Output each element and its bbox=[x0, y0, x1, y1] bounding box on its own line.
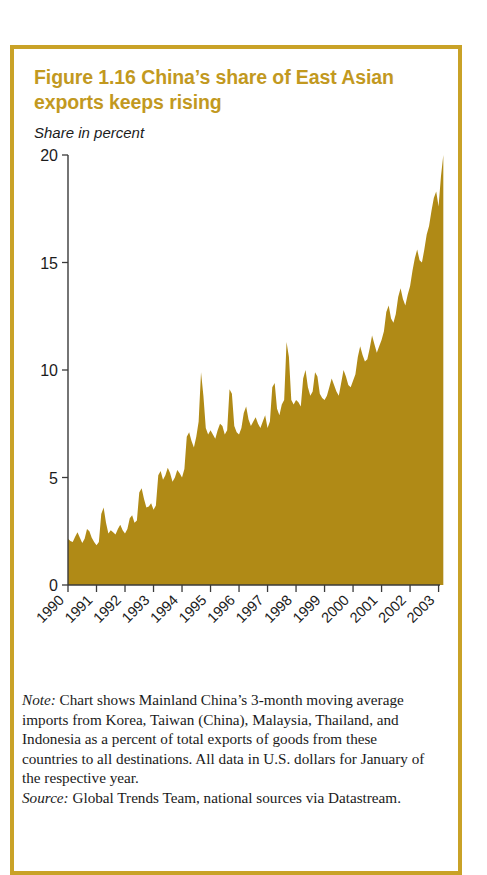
x-tick-label: 1998 bbox=[261, 592, 295, 626]
source-body: Global Trends Team, national sources via… bbox=[69, 789, 401, 806]
chart-units-label: Share in percent bbox=[34, 124, 438, 141]
figure-title: Figure 1.16 China’s share of East Asian … bbox=[34, 65, 434, 115]
x-tick-label: 1996 bbox=[204, 592, 238, 626]
source-label: Source: bbox=[22, 789, 69, 806]
y-tick-label: 20 bbox=[40, 147, 58, 164]
series-area bbox=[68, 155, 443, 585]
x-tick-label: 1999 bbox=[290, 592, 324, 626]
x-tick-label: 1991 bbox=[61, 592, 95, 626]
x-tick-label: 1992 bbox=[90, 592, 124, 626]
x-tick-label: 2000 bbox=[318, 592, 352, 626]
x-tick-label: 2003 bbox=[404, 592, 438, 626]
y-tick-label: 15 bbox=[40, 255, 58, 272]
x-tick-label: 1990 bbox=[34, 592, 67, 626]
note-paragraph: Note: Chart shows Mainland China’s 3-mon… bbox=[22, 690, 426, 788]
x-axis-tick-labels: 1990199119921993199419951996199719981999… bbox=[34, 592, 438, 626]
note-body: Chart shows Mainland China’s 3-month mov… bbox=[22, 691, 424, 786]
y-axis-tick-labels: 05101520 bbox=[40, 147, 58, 594]
x-tick-label: 2002 bbox=[375, 592, 409, 626]
x-tick-label: 1994 bbox=[147, 592, 181, 626]
y-tick-label: 0 bbox=[49, 577, 58, 594]
x-tick-label: 1995 bbox=[176, 592, 210, 626]
y-tick-label: 5 bbox=[49, 470, 58, 487]
x-tick-label: 1997 bbox=[233, 592, 267, 626]
note-label: Note: bbox=[22, 691, 56, 708]
source-paragraph: Source: Global Trends Team, national sou… bbox=[22, 788, 426, 808]
chart-series-fill bbox=[68, 155, 443, 585]
x-tick-label: 2001 bbox=[347, 592, 381, 626]
y-tick-label: 10 bbox=[40, 362, 58, 379]
chart-area: 05101520 1990199119921993199419951996199… bbox=[34, 143, 446, 663]
area-chart: 05101520 1990199119921993199419951996199… bbox=[34, 143, 446, 663]
figure-footnotes: Note: Chart shows Mainland China’s 3-mon… bbox=[22, 690, 426, 808]
x-tick-label: 1993 bbox=[119, 592, 153, 626]
